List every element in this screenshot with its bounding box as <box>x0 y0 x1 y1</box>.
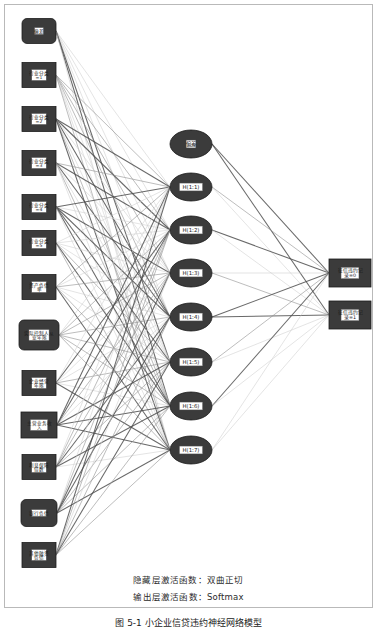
network-node[interactable]: H(1:7) <box>170 436 212 464</box>
hidden-activation-note: 隐藏层激活函数：双曲正切 <box>4 573 373 585</box>
network-node[interactable]: 利息保障倍数 <box>22 455 56 480</box>
network-node[interactable]: H(1:6) <box>170 392 212 420</box>
network-node[interactable]: 其他融资负债 <box>22 543 56 568</box>
node-label: H(1:7) <box>183 447 200 453</box>
node-label-line2: =4 <box>36 207 43 212</box>
node-label-line2: =3 <box>36 163 43 168</box>
node-group-hidden-layer: 偏差H(1:1)H(1:2)H(1:3)H(1:4)H(1:5)H(1:6)H(… <box>170 130 212 464</box>
connection-edge <box>56 31 170 187</box>
network-node[interactable]: H(1:2) <box>170 216 212 244</box>
network-node[interactable]: 行业分类=3 <box>22 151 56 176</box>
network-node[interactable]: 银行负债 <box>21 500 57 527</box>
network-node[interactable]: 行业分类=1 <box>22 63 56 88</box>
connection-edge <box>212 187 329 273</box>
connection-edge <box>56 207 170 230</box>
node-label-line2: 负债 <box>34 554 44 561</box>
connection-edge <box>212 230 329 273</box>
network-node[interactable]: H(1:5) <box>170 348 212 376</box>
node-label: 偏差 <box>186 140 197 148</box>
node-label: H(1:4) <box>183 314 200 320</box>
figure-caption: 图 5-1 小企业信贷违约神经网络模型 <box>0 615 377 632</box>
network-node[interactable]: 偏差 <box>22 19 56 44</box>
connection-edge <box>56 243 170 273</box>
connection-edge <box>56 187 170 207</box>
edge-group-hidden-to-output <box>212 144 329 450</box>
connection-edge <box>212 315 329 362</box>
node-label-line2: 年限 <box>34 382 44 389</box>
node-group-output-layer: 征信违约记录=0征信违约记录=1 <box>329 259 371 329</box>
network-node[interactable]: H(1:1) <box>170 173 212 201</box>
node-label: H(1:2) <box>183 227 200 233</box>
node-label: H(1:5) <box>183 359 200 365</box>
connection-edge <box>56 317 170 555</box>
network-node[interactable]: 行业分类=2 <box>22 107 56 132</box>
edge-group-input-to-hidden <box>56 31 170 555</box>
node-label-line2: 入 <box>37 425 42 430</box>
network-node[interactable]: H(1:4) <box>170 303 212 331</box>
connection-edge <box>56 119 170 230</box>
node-label: 银行负债 <box>29 510 49 517</box>
node-group-input-layer: 偏差行业分类=1行业分类=2行业分类=3行业分类=4行业分类=5资产负债率实际控… <box>19 19 59 568</box>
connection-edge <box>212 273 329 406</box>
node-label-line2: 录=0 <box>344 272 356 278</box>
network-node[interactable]: 企业经营年限 <box>22 371 56 396</box>
node-label-line2: 倍数 <box>34 466 44 473</box>
output-activation-note: 输出层激活函数：Softmax <box>4 590 373 602</box>
node-label-line2: =1 <box>36 75 43 80</box>
network-node[interactable]: 实际控制人从业年限 <box>19 320 59 350</box>
network-node[interactable]: 资产负债率 <box>22 275 56 300</box>
neural-network-figure: 偏差行业分类=1行业分类=2行业分类=3行业分类=4行业分类=5资产负债率实际控… <box>0 0 377 632</box>
node-label: H(1:1) <box>183 184 200 190</box>
connection-edge <box>212 273 329 362</box>
node-label: H(1:3) <box>183 270 200 276</box>
node-label-line2: 业年限 <box>32 334 47 341</box>
connection-edge <box>57 230 170 425</box>
network-node[interactable]: 征信违约记录=0 <box>329 259 371 287</box>
connection-edge <box>56 163 170 273</box>
node-label-line2: 录=1 <box>344 314 356 320</box>
node-label: H(1:6) <box>183 403 200 409</box>
network-node[interactable]: H(1:3) <box>170 259 212 287</box>
network-diagram-svg: 偏差行业分类=1行业分类=2行业分类=3行业分类=4行业分类=5资产负债率实际控… <box>5 5 374 609</box>
node-label: 偏差 <box>34 28 44 35</box>
connection-edge <box>57 362 170 513</box>
connection-edge <box>212 144 329 273</box>
node-label-line2: =5 <box>36 243 43 248</box>
network-node[interactable]: 行业分类=4 <box>22 195 56 220</box>
connection-edge <box>56 119 170 187</box>
network-node[interactable]: 主营业务收入 <box>21 412 57 438</box>
connection-edge <box>212 315 329 317</box>
connection-edge <box>212 273 329 450</box>
connection-edge <box>212 315 329 406</box>
network-node[interactable]: 征信违约记录=1 <box>329 301 371 329</box>
node-label-line2: 率 <box>37 286 42 293</box>
node-label-line2: =2 <box>36 119 43 124</box>
network-node[interactable]: 行业分类=5 <box>22 231 56 256</box>
connection-edge <box>212 230 329 315</box>
connection-edge <box>212 315 329 450</box>
network-node[interactable]: 偏差 <box>170 130 212 158</box>
diagram-frame: 偏差行业分类=1行业分类=2行业分类=3行业分类=4行业分类=5资产负债率实际控… <box>4 4 373 608</box>
connection-edge <box>56 163 170 187</box>
